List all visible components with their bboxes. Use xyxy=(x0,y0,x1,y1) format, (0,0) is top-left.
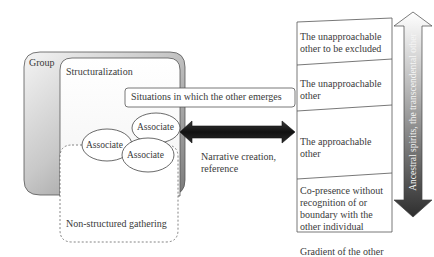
level-4-line4: other individual xyxy=(300,221,364,233)
situations-label: Situations in which the other emerges xyxy=(131,91,282,103)
associate-label-bottom: Associate xyxy=(127,149,164,161)
level-1-line2: other to be excluded xyxy=(300,43,381,55)
level-4-line2: recognition of or xyxy=(300,197,367,209)
associate-label-top: Associate xyxy=(137,121,174,133)
level-2-line2: other xyxy=(300,90,321,102)
level-1-line1: The unapproachable xyxy=(300,31,381,43)
non-structured-label: Non-structured gathering xyxy=(66,218,167,230)
gradient-caption: Gradient of the other xyxy=(300,246,384,257)
narrative-label-line2: reference xyxy=(201,163,238,175)
vertical-arrow-label: Ancestral spirits, the transcendental ot… xyxy=(407,33,419,191)
narrative-label-line1: Narrative creation, xyxy=(201,151,276,163)
group-label: Group xyxy=(29,57,55,69)
level-3-line1: The approachable xyxy=(300,136,371,148)
level-3-line2: other xyxy=(300,148,321,160)
level-4-line1: Co-presence without xyxy=(300,185,383,197)
structuralization-label: Structuralization xyxy=(66,66,133,78)
associate-label-left: Associate xyxy=(86,139,123,151)
level-4-line3: boundary with the xyxy=(300,209,373,221)
narrative-double-arrow xyxy=(180,121,295,143)
level-2-line1: The unapproachable xyxy=(300,78,381,90)
